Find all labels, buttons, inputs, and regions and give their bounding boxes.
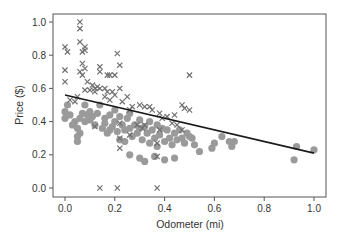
x-tick-label: 0.6 bbox=[207, 203, 221, 214]
x-axis: 0.00.20.40.60.81.0 bbox=[58, 197, 321, 214]
x-tick-label: 0.2 bbox=[108, 203, 122, 214]
data-point-circle bbox=[171, 155, 178, 162]
data-point-circle bbox=[116, 113, 123, 120]
x-tick-label: 0.4 bbox=[158, 203, 172, 214]
data-point-circle bbox=[211, 140, 218, 147]
data-point-circle bbox=[218, 133, 225, 140]
data-point-circle bbox=[121, 138, 128, 145]
data-point-circle bbox=[188, 135, 195, 142]
data-point-circle bbox=[196, 148, 203, 155]
data-point-circle bbox=[76, 130, 83, 137]
data-point-circle bbox=[81, 101, 88, 108]
data-point-circle bbox=[106, 126, 113, 133]
data-point-circle bbox=[161, 156, 168, 163]
data-point-circle bbox=[191, 141, 198, 148]
data-point-circle bbox=[141, 158, 148, 165]
y-axis-label: Price ($) bbox=[13, 85, 25, 125]
plot-background bbox=[53, 14, 326, 197]
data-point-circle bbox=[146, 118, 153, 125]
x-tick-label: 1.0 bbox=[307, 203, 321, 214]
y-tick-label: 0.6 bbox=[32, 83, 46, 94]
x-axis-label: Odometer (mi) bbox=[156, 218, 224, 230]
x-tick-label: 0.8 bbox=[257, 203, 271, 214]
data-point-circle bbox=[181, 140, 188, 147]
data-point-circle bbox=[66, 111, 73, 118]
scatter-chart: 0.00.20.40.60.81.0 0.00.20.40.60.81.0 Od… bbox=[0, 0, 344, 238]
data-point-circle bbox=[114, 128, 121, 135]
data-point-circle bbox=[126, 151, 133, 158]
x-tick-label: 0.0 bbox=[58, 203, 72, 214]
y-tick-label: 0.2 bbox=[32, 149, 46, 160]
y-tick-label: 1.0 bbox=[32, 17, 46, 28]
data-point-circle bbox=[94, 110, 101, 117]
y-tick-label: 0.0 bbox=[32, 183, 46, 194]
data-point-circle bbox=[74, 138, 81, 145]
data-point-circle bbox=[290, 156, 297, 163]
data-point-circle bbox=[101, 120, 108, 127]
data-point-circle bbox=[163, 126, 170, 133]
data-point-circle bbox=[91, 121, 98, 128]
data-point-circle bbox=[139, 136, 146, 143]
y-tick-label: 0.8 bbox=[32, 50, 46, 61]
data-point-circle bbox=[231, 138, 238, 145]
y-tick-label: 0.4 bbox=[32, 116, 46, 127]
y-axis: 0.00.20.40.60.81.0 bbox=[32, 17, 53, 194]
